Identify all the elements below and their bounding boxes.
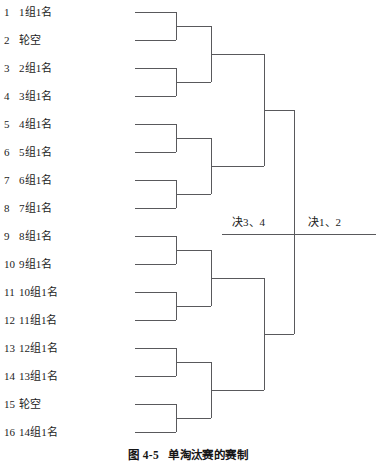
entry-name: 14组1名	[19, 426, 58, 438]
round1-line-14	[135, 376, 176, 377]
round1-line-12	[135, 320, 176, 321]
entry-seed: 5	[4, 118, 17, 130]
entry-seed: 7	[4, 174, 17, 186]
entry-seed: 3	[4, 62, 17, 74]
round1-line-2	[135, 40, 176, 41]
round3-line-4	[211, 390, 264, 391]
round1-line-7	[135, 180, 176, 181]
entry-seed: 1	[4, 6, 17, 18]
final-connector	[294, 110, 295, 334]
round2-line-2	[176, 82, 211, 83]
entry-name: 13组1名	[19, 370, 58, 382]
figure-caption-number: 图 4-5	[128, 449, 159, 461]
round2-line-1	[176, 26, 211, 27]
figure-caption: 图 4-5单淘汰赛的赛制	[0, 446, 376, 462]
bracket-entry: 1211组1名	[4, 314, 58, 326]
entry-seed: 13	[4, 342, 17, 354]
round1-line-6	[135, 152, 176, 153]
bracket-entry: 109组1名	[4, 258, 52, 270]
entry-seed: 11	[4, 286, 17, 298]
figure-caption-title: 单淘汰赛的赛制	[168, 449, 248, 461]
round1-line-13	[135, 348, 176, 349]
entry-seed: 14	[4, 370, 17, 382]
entry-name: 12组1名	[19, 342, 58, 354]
round1-line-8	[135, 208, 176, 209]
entry-name: 轮空	[19, 34, 41, 46]
championship-label: 决1、2	[308, 216, 341, 229]
round3-line-3	[211, 278, 264, 279]
bracket-entry: 15轮空	[4, 398, 41, 410]
entry-seed: 9	[4, 230, 17, 242]
entry-name: 11组1名	[19, 314, 58, 326]
round2-line-5	[176, 250, 211, 251]
final-line-upper	[264, 110, 294, 111]
bracket-entry: 11组1名	[4, 6, 52, 18]
bracket-entry: 1614组1名	[4, 426, 58, 438]
entry-name: 10组1名	[19, 286, 58, 298]
entry-seed: 16	[4, 426, 17, 438]
bracket-entry: 1312组1名	[4, 342, 58, 354]
round1-line-3	[135, 68, 176, 69]
third-place-label: 决3、4	[232, 216, 265, 229]
round1-line-9	[135, 236, 176, 237]
entry-seed: 6	[4, 146, 17, 158]
round1-line-5	[135, 124, 176, 125]
entry-name: 5组1名	[19, 146, 52, 158]
round3-line-1	[211, 54, 264, 55]
round2-line-6	[176, 306, 211, 307]
entry-seed: 4	[4, 90, 17, 102]
bracket-entry: 32组1名	[4, 62, 52, 74]
round1-line-10	[135, 264, 176, 265]
bracket-entry: 65组1名	[4, 146, 52, 158]
entry-name: 3组1名	[19, 90, 52, 102]
bracket-entry: 2轮空	[4, 34, 41, 46]
round2-line-7	[176, 362, 211, 363]
entry-name: 7组1名	[19, 202, 52, 214]
round1-line-1	[135, 12, 176, 13]
entry-seed: 15	[4, 398, 17, 410]
bracket-entry: 98组1名	[4, 230, 52, 242]
entry-name: 6组1名	[19, 174, 52, 186]
round1-line-15	[135, 404, 176, 405]
entry-seed: 8	[4, 202, 17, 214]
round2-line-3	[176, 138, 211, 139]
round1-line-11	[135, 292, 176, 293]
bracket-entry: 1413组1名	[4, 370, 58, 382]
final-result-baseline	[222, 234, 376, 235]
round1-line-16	[135, 432, 176, 433]
bracket-entry: 76组1名	[4, 174, 52, 186]
entry-name: 轮空	[19, 398, 41, 410]
entry-name: 4组1名	[19, 118, 52, 130]
entry-name: 8组1名	[19, 230, 52, 242]
bracket-entry: 87组1名	[4, 202, 52, 214]
bracket-entry: 1110组1名	[4, 286, 58, 298]
round2-line-8	[176, 418, 211, 419]
round2-line-4	[176, 194, 211, 195]
entry-seed: 10	[4, 258, 17, 270]
entry-name: 2组1名	[19, 62, 52, 74]
entry-seed: 2	[4, 34, 17, 46]
entry-seed: 12	[4, 314, 17, 326]
bracket-entry: 43组1名	[4, 90, 52, 102]
entry-name: 9组1名	[19, 258, 52, 270]
bracket-entry: 54组1名	[4, 118, 52, 130]
entry-name: 1组1名	[19, 6, 52, 18]
final-line-lower	[264, 334, 294, 335]
round1-line-4	[135, 96, 176, 97]
round3-line-2	[211, 166, 264, 167]
figure-container: 11组1名 2轮空 32组1名 43组1名 54组1名 65组1名 76组1名 …	[0, 0, 376, 464]
